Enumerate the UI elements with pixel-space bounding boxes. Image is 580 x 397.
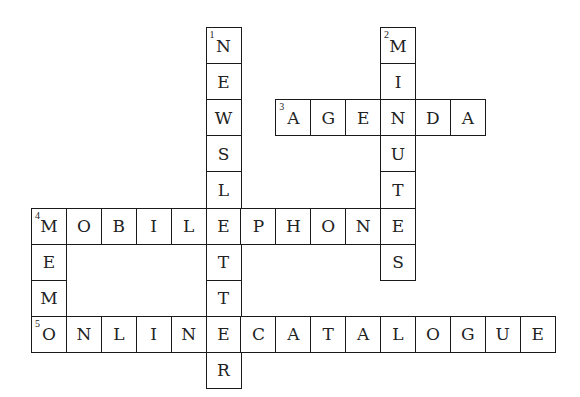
cell-letter: C (252, 324, 265, 344)
cell-letter: H (286, 216, 301, 236)
crossword-cell[interactable]: 1N (206, 27, 242, 64)
crossword-cell[interactable]: U (380, 135, 416, 172)
cell-letter: M (40, 288, 57, 308)
crossword-cell[interactable]: N (66, 316, 102, 353)
crossword-cell[interactable]: S (206, 135, 242, 172)
crossword-cell[interactable]: B (101, 208, 137, 245)
cell-letter: W (215, 108, 232, 128)
cell-letter: L (183, 216, 194, 236)
cell-letter: L (392, 324, 403, 344)
crossword-cell[interactable]: E (345, 99, 381, 136)
cell-letter: N (356, 216, 371, 236)
clue-number: 2 (384, 29, 389, 40)
crossword-cell[interactable]: I (380, 63, 416, 100)
cell-letter: E (217, 72, 229, 92)
cell-letter: G (321, 108, 335, 128)
cell-letter: L (113, 324, 124, 344)
crossword-cell[interactable]: T (206, 280, 242, 317)
crossword-cell[interactable]: L (206, 171, 242, 208)
cell-letter: N (76, 324, 91, 344)
cell-letter: U (496, 324, 510, 344)
crossword-cell[interactable]: L (380, 316, 416, 353)
crossword-cell[interactable]: T (310, 316, 346, 353)
crossword-cell[interactable]: R (206, 352, 242, 389)
cell-letter: I (150, 216, 157, 236)
cell-letter: E (43, 252, 55, 272)
crossword-cell[interactable]: 5O (31, 316, 67, 353)
crossword-cell[interactable]: E (206, 208, 242, 245)
cell-letter: B (113, 216, 126, 236)
cell-letter: A (462, 108, 474, 128)
clue-number: 4 (35, 210, 40, 221)
crossword-cell[interactable]: C (240, 316, 276, 353)
crossword-cell[interactable]: I (136, 208, 172, 245)
cell-letter: T (392, 180, 403, 200)
cell-letter: N (181, 324, 196, 344)
crossword-cell[interactable]: W (206, 99, 242, 136)
crossword-cell[interactable]: E (520, 316, 556, 353)
crossword-cell[interactable]: G (310, 99, 346, 136)
crossword-cell[interactable]: I (136, 316, 172, 353)
cell-letter: T (218, 288, 229, 308)
cell-letter: P (253, 216, 264, 236)
clue-number: 5 (35, 318, 40, 329)
cell-letter: U (391, 144, 405, 164)
clue-number: 1 (210, 29, 215, 40)
crossword-cell[interactable]: E (380, 208, 416, 245)
cell-letter: D (426, 108, 440, 128)
crossword-cell[interactable]: A (345, 316, 381, 353)
crossword-cell[interactable]: O (415, 316, 451, 353)
crossword-cell[interactable]: N (380, 99, 416, 136)
crossword-cell[interactable]: A (275, 316, 311, 353)
cell-letter: N (216, 36, 231, 56)
crossword-cell[interactable]: M (31, 280, 67, 317)
cell-letter: T (218, 252, 229, 272)
cell-letter: O (426, 324, 440, 344)
crossword-cell[interactable]: 4M (31, 208, 67, 245)
crossword-cell[interactable]: D (415, 99, 451, 136)
cell-letter: E (357, 108, 369, 128)
crossword-cell[interactable]: T (380, 171, 416, 208)
crossword-cell[interactable]: L (101, 316, 137, 353)
cell-letter: E (392, 216, 404, 236)
crossword-cell[interactable]: T (206, 244, 242, 281)
cell-letter: M (40, 216, 57, 236)
cell-letter: M (389, 36, 406, 56)
cell-letter: E (531, 324, 543, 344)
cell-letter: R (217, 360, 230, 380)
crossword-cell[interactable]: S (380, 244, 416, 281)
crossword-cell[interactable]: 2M (380, 27, 416, 64)
crossword-cell[interactable]: P (240, 208, 276, 245)
cell-letter: G (461, 324, 475, 344)
cell-letter: L (218, 180, 229, 200)
crossword-cell[interactable]: L (171, 208, 207, 245)
clue-number: 3 (279, 101, 284, 112)
cell-letter: I (395, 72, 402, 92)
crossword-cell[interactable]: N (345, 208, 381, 245)
crossword-cell[interactable]: E (206, 316, 242, 353)
crossword-cell[interactable]: H (275, 208, 311, 245)
cell-letter: A (287, 108, 299, 128)
cell-letter: O (77, 216, 91, 236)
cell-letter: I (150, 324, 157, 344)
cell-letter: A (357, 324, 369, 344)
crossword-cell[interactable]: A (450, 99, 486, 136)
cell-letter: S (218, 144, 230, 164)
cell-letter: T (323, 324, 334, 344)
cell-letter: E (217, 324, 229, 344)
crossword-cell[interactable]: O (310, 208, 346, 245)
cell-letter: A (287, 324, 299, 344)
crossword-grid: 1NEWSLETTER2MINUTES3AGEDA4MOBILPHONEM5ON… (0, 0, 580, 397)
crossword-cell[interactable]: E (206, 63, 242, 100)
crossword-cell[interactable]: N (171, 316, 207, 353)
cell-letter: N (391, 108, 406, 128)
crossword-cell[interactable]: E (31, 244, 67, 281)
crossword-cell[interactable]: O (66, 208, 102, 245)
cell-letter: O (42, 324, 56, 344)
crossword-cell[interactable]: 3A (275, 99, 311, 136)
cell-letter: O (321, 216, 335, 236)
crossword-cell[interactable]: G (450, 316, 486, 353)
cell-letter: S (392, 252, 404, 272)
crossword-cell[interactable]: U (485, 316, 521, 353)
cell-letter: E (217, 216, 229, 236)
